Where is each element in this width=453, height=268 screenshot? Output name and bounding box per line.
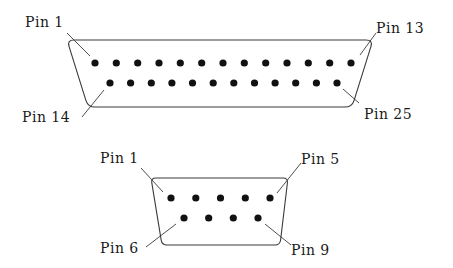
db25-pin-18-icon	[189, 79, 196, 86]
db25-pin-4-icon	[155, 59, 162, 66]
db25-label-pin-25: Pin 25	[364, 107, 412, 121]
db9-connector	[141, 163, 301, 247]
db25-pin-2-icon	[113, 59, 120, 66]
db25-leader-line	[82, 90, 104, 117]
db9-leader-line	[141, 168, 163, 192]
db25-label-pin-1: Pin 1	[25, 15, 64, 29]
db9-pin-6-icon	[180, 214, 187, 221]
db25-pin-11-icon	[305, 59, 312, 66]
db9-pin-2-icon	[192, 194, 199, 201]
db9-shell-outline	[152, 178, 288, 245]
db25-pin-6-icon	[198, 59, 205, 66]
db25-pin-13-icon	[347, 59, 354, 66]
db9-leader-line	[265, 224, 291, 245]
db25-label-pin-13: Pin 13	[376, 21, 424, 35]
db9-label-pin-6: Pin 6	[100, 241, 139, 255]
db25-connector	[67, 33, 376, 117]
db25-pin-16-icon	[148, 79, 155, 86]
db9-pin-4-icon	[242, 194, 249, 201]
db9-label-pin-1: Pin 1	[100, 151, 139, 165]
db25-pin-7-icon	[219, 59, 226, 66]
db25-pin-5-icon	[177, 59, 184, 66]
db25-pin-12-icon	[326, 59, 333, 66]
db25-pin-1-icon	[91, 59, 98, 66]
db9-pin-7-icon	[205, 214, 212, 221]
db25-pin-14-icon	[106, 79, 113, 86]
db25-pin-22-icon	[272, 79, 279, 86]
db25-pin-10-icon	[283, 59, 290, 66]
db9-pin-3-icon	[217, 194, 224, 201]
db25-pin-19-icon	[210, 79, 217, 86]
db25-pin-15-icon	[127, 79, 134, 86]
db9-leader-line	[146, 224, 176, 247]
db25-pin-8-icon	[241, 59, 248, 66]
db25-label-pin-14: Pin 14	[22, 110, 70, 124]
db25-pin-17-icon	[168, 79, 175, 86]
db9-label-pin-5: Pin 5	[301, 152, 340, 166]
db25-pin-23-icon	[292, 79, 299, 86]
db9-pin-9-icon	[254, 214, 261, 221]
db25-pin-20-icon	[230, 79, 237, 86]
db25-pin-9-icon	[262, 59, 269, 66]
db25-pin-21-icon	[251, 79, 258, 86]
d-sub-pinout-diagram	[0, 0, 453, 268]
db9-pin-1-icon	[167, 194, 174, 201]
db25-leader-line	[360, 33, 376, 55]
db25-pin-3-icon	[134, 59, 141, 66]
db9-label-pin-9: Pin 9	[291, 243, 330, 257]
db9-pin-5-icon	[266, 194, 273, 201]
db25-shell-outline	[69, 40, 372, 107]
db25-pin-25-icon	[333, 79, 340, 86]
db25-pin-24-icon	[313, 79, 320, 86]
db9-pin-8-icon	[230, 214, 237, 221]
